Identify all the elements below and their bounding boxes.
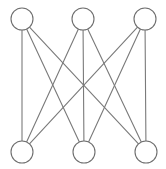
edge-layer — [22, 27, 146, 144]
graph-node — [72, 8, 94, 30]
graph-node — [135, 141, 157, 163]
graph-node — [11, 8, 33, 30]
graph-canvas — [0, 0, 166, 169]
graph-node — [134, 8, 156, 30]
graph-diagram — [0, 0, 166, 169]
graph-node — [73, 141, 95, 163]
graph-edge — [145, 30, 146, 141]
graph-node — [11, 141, 33, 163]
